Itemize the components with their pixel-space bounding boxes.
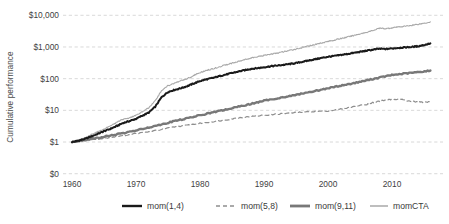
x-tick-label: 1960 xyxy=(63,179,82,189)
chart-figure: Cumulative performance $0$1$10$100$1,000… xyxy=(0,0,449,224)
chart-legend: mom(1,4)mom(5,8)mom(9,11)momCTA xyxy=(122,201,429,211)
series-line-mom911 xyxy=(72,71,430,143)
legend-item-mom14[interactable]: mom(1,4) xyxy=(122,201,184,211)
x-tick-label: 2000 xyxy=(319,179,338,189)
legend-item-mom58[interactable]: mom(5,8) xyxy=(216,201,278,211)
legend-label: mom(9,11) xyxy=(315,201,356,211)
cumulative-performance-chart: Cumulative performance $0$1$10$100$1,000… xyxy=(0,0,449,224)
legend-item-momCTA[interactable]: momCTA xyxy=(370,201,429,211)
legend-label: mom(5,8) xyxy=(241,201,278,211)
y-tick-labels: $0$1$10$100$1,000$10,000 xyxy=(29,10,60,178)
y-axis-title: Cumulative performance xyxy=(6,51,15,143)
legend-label: mom(1,4) xyxy=(147,201,184,211)
series-line-mom58 xyxy=(72,99,430,142)
y-axis-title-group: Cumulative performance xyxy=(6,51,15,143)
y-tick-label: $1 xyxy=(50,137,60,147)
x-tick-label: 1970 xyxy=(127,179,146,189)
legend-label: momCTA xyxy=(393,201,429,211)
series-lines xyxy=(72,22,430,143)
y-tick-label: $1,000 xyxy=(33,42,59,52)
y-tick-label: $10,000 xyxy=(29,10,60,20)
x-tick-label: 1990 xyxy=(255,179,274,189)
x-tick-label: 2010 xyxy=(383,179,402,189)
x-tick-labels: 196019701980199020002010 xyxy=(63,179,402,189)
y-tick-label: $100 xyxy=(40,74,59,84)
x-tick-label: 1980 xyxy=(191,179,210,189)
y-tick-label: $10 xyxy=(45,105,59,115)
series-line-momCTA xyxy=(72,22,430,143)
legend-item-mom911[interactable]: mom(9,11) xyxy=(290,201,356,211)
y-tick-label: $0 xyxy=(50,169,60,179)
gridlines xyxy=(63,15,443,173)
